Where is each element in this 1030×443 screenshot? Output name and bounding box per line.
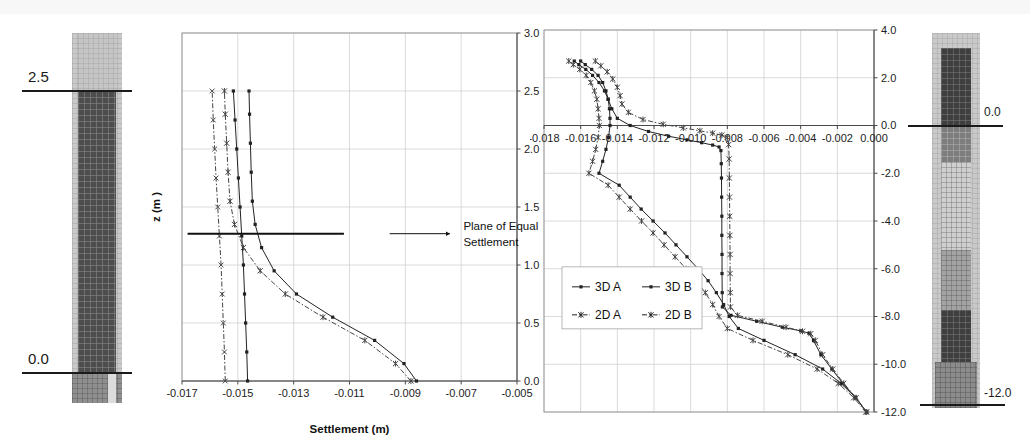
data-point-marker — [393, 361, 398, 367]
data-point-marker — [663, 231, 666, 234]
data-point-marker — [601, 81, 604, 84]
data-point-marker — [661, 242, 666, 248]
x-tick-label: -0.011 — [334, 387, 364, 399]
data-point-marker — [674, 243, 677, 246]
plane-of-equal-settlement-annotation: Plane of EqualSettlement — [188, 220, 539, 248]
data-point-marker — [243, 292, 246, 295]
y-tick-label: -6.0 — [881, 263, 900, 275]
data-point-marker — [588, 80, 593, 86]
data-point-marker — [590, 158, 595, 164]
data-point-marker — [610, 76, 615, 82]
x-tick-label: 0.000 — [860, 132, 888, 144]
data-point-marker — [232, 89, 235, 92]
right-column-pile-lower — [941, 310, 971, 362]
data-point-marker — [584, 63, 587, 66]
data-point-marker — [737, 327, 740, 330]
y-tick-label: -4.0 — [881, 215, 900, 227]
data-point-marker — [720, 234, 723, 237]
x-tick-label: -0.009 — [390, 387, 421, 399]
data-point-marker — [728, 304, 733, 310]
data-point-marker — [672, 254, 677, 260]
data-point-marker — [720, 272, 723, 275]
y-tick-label: 4.0 — [881, 24, 896, 36]
data-point-marker — [616, 117, 619, 120]
data-point-marker — [225, 169, 230, 175]
data-point-marker — [590, 68, 593, 71]
annotation-line-1: Plane of Equal — [463, 220, 538, 232]
data-point-marker — [237, 176, 240, 179]
data-point-marker — [592, 88, 597, 94]
data-point-marker — [584, 68, 587, 71]
right-column-soil-band-b — [941, 250, 971, 310]
series-3d-a — [232, 89, 249, 382]
data-point-marker — [728, 290, 733, 296]
data-point-marker — [223, 111, 228, 117]
data-point-marker — [785, 352, 790, 358]
right-column-bottom-label: -12.0 — [984, 386, 1011, 400]
data-point-marker — [626, 109, 631, 115]
data-point-marker — [615, 84, 620, 90]
data-point-marker — [235, 147, 238, 150]
data-point-marker — [650, 230, 655, 236]
left-column-pile — [78, 91, 116, 373]
data-point-marker — [762, 339, 765, 342]
right-column-top-label: 0.0 — [984, 105, 1001, 119]
data-point-marker — [242, 263, 245, 266]
y-tick-label: -2.0 — [881, 167, 900, 179]
data-point-marker — [283, 291, 288, 297]
data-point-marker — [610, 107, 613, 110]
data-point-marker — [579, 285, 582, 288]
data-point-marker — [584, 72, 589, 78]
data-point-marker — [719, 149, 722, 152]
data-point-marker — [232, 221, 237, 227]
x-tick-label: -0.002 — [822, 132, 853, 144]
data-point-marker — [700, 141, 703, 144]
data-point-marker — [597, 172, 600, 175]
data-point-marker — [596, 74, 599, 77]
data-point-marker — [593, 146, 598, 152]
y-tick-label: -8.0 — [881, 310, 900, 322]
data-point-marker — [651, 219, 654, 222]
legend-label: 2D B — [665, 308, 692, 322]
data-point-marker — [331, 316, 334, 319]
right-column-base-soil — [935, 362, 977, 408]
data-point-marker — [720, 176, 723, 179]
series-line — [224, 91, 410, 381]
data-point-marker — [750, 337, 755, 343]
legend-label: 3D A — [595, 280, 621, 294]
data-point-marker — [295, 292, 298, 295]
data-point-marker — [571, 62, 576, 68]
x-tick-label: -0.018 — [530, 132, 560, 144]
data-point-marker — [273, 269, 276, 272]
data-point-marker — [248, 113, 251, 116]
data-point-marker — [715, 291, 718, 294]
x-axis-title: Settlement (m) — [310, 423, 390, 435]
data-point-marker — [373, 339, 376, 342]
data-point-marker — [727, 251, 732, 257]
left-column-bottom-label: 0.0 — [28, 350, 49, 367]
data-point-marker — [249, 142, 252, 145]
right-column-bottom-rule — [920, 404, 1005, 406]
data-point-marker — [577, 66, 582, 72]
x-tick-label: -0.007 — [446, 387, 477, 399]
data-point-marker — [603, 89, 606, 92]
data-point-marker — [604, 148, 607, 151]
data-point-marker — [608, 124, 611, 127]
x-tick-label: -0.013 — [278, 387, 309, 399]
chart-legend: 3D A3D B2D A2D B — [562, 267, 702, 329]
data-point-marker — [258, 268, 263, 274]
data-point-marker — [619, 101, 624, 107]
data-point-marker — [597, 81, 600, 84]
series-2d-a — [210, 89, 228, 384]
data-point-marker — [720, 215, 723, 218]
data-point-marker — [227, 198, 232, 204]
chart-gridlines — [544, 30, 874, 412]
data-point-marker — [608, 117, 611, 120]
series-3d-b — [247, 89, 418, 382]
data-point-marker — [647, 130, 650, 133]
data-point-marker — [721, 305, 724, 308]
series-2d-a — [566, 58, 868, 415]
data-point-marker — [629, 124, 632, 127]
right-settlement-chart: -12.0-10.0-8.0-6.0-4.0-2.00.02.04.0-0.01… — [530, 10, 920, 443]
data-point-marker — [362, 337, 367, 343]
